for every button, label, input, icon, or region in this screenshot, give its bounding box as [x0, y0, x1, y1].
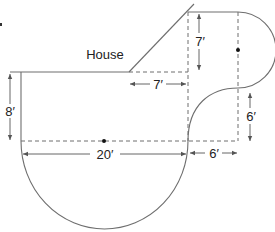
dim-7-vertical-label: 7′ [195, 34, 205, 49]
dim-8-label: 8′ [5, 104, 15, 119]
diagram-canvas: 8′ 20′ 7′ 7′ 6′ 6′ House [0, 0, 275, 232]
right-semicircle-center-dot [236, 48, 240, 52]
dim-7-horizontal-label: 7′ [153, 77, 163, 92]
triangle-diagonal [129, 4, 194, 72]
semicircle-center-dot [102, 139, 106, 143]
house-label: House [86, 47, 124, 62]
dim-6-horizontal-label: 6′ [209, 146, 219, 161]
dim-20-label: 20′ [97, 147, 114, 162]
right-semicircle [238, 12, 275, 88]
dim-6-vertical-label: 6′ [246, 109, 256, 124]
corner-mark [0, 23, 2, 26]
quarter-arc-cutout [188, 88, 238, 141]
